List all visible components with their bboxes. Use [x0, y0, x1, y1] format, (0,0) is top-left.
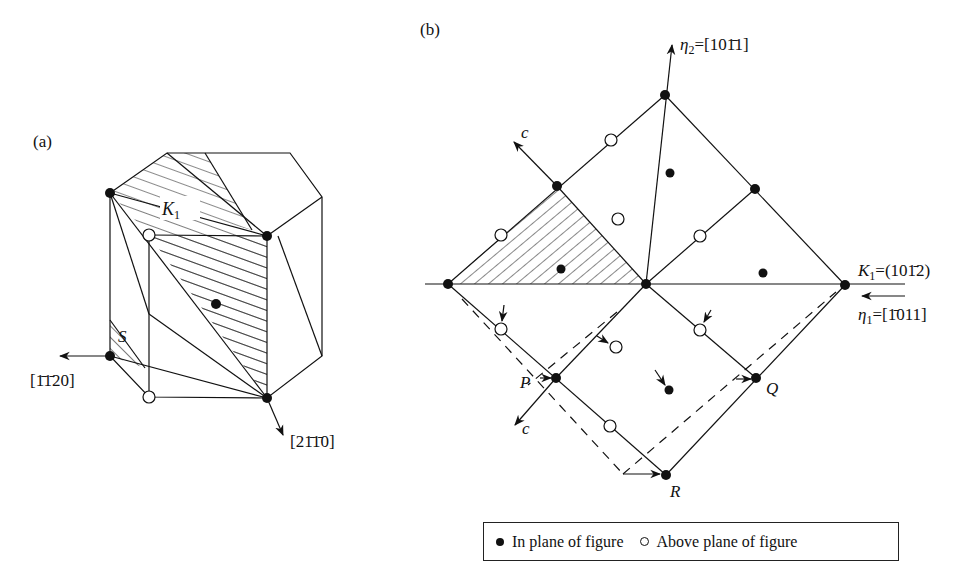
atom-open [694, 324, 706, 336]
atom-open [604, 420, 616, 432]
legend-filled-label: In plane of figure [512, 533, 624, 551]
atom-filled [665, 386, 674, 395]
atom-open [610, 341, 622, 353]
k1-plane-hatch-lower [149, 235, 267, 398]
open-circle-icon [640, 537, 649, 546]
c-axis-label-upper: c [521, 123, 529, 142]
atom-filled [551, 373, 561, 383]
s-label: S [118, 327, 127, 346]
atom-filled [840, 280, 850, 290]
atom-filled [211, 299, 221, 309]
atom-open [143, 229, 155, 241]
point-p-label: P [519, 373, 530, 392]
c-axis-label-lower: c [522, 419, 530, 438]
point-q-label: Q [766, 379, 778, 398]
atom-filled [750, 184, 760, 194]
atom-filled [751, 373, 761, 383]
twin-region-hatch [448, 186, 646, 284]
point-r-label: R [669, 482, 681, 501]
atom-filled [443, 279, 453, 289]
direction-arrow-down [267, 398, 283, 435]
legend-open-label: Above plane of figure [657, 533, 798, 551]
atom-filled [262, 393, 272, 403]
panel-b-label: (b) [420, 20, 440, 39]
atom-filled [660, 90, 670, 100]
atom-open [495, 229, 507, 241]
atom-filled [262, 231, 272, 241]
panel-b-points [443, 90, 850, 480]
atom-filled [105, 188, 115, 198]
filled-circle-icon [496, 538, 504, 546]
atom-open [605, 134, 617, 146]
atom-filled [759, 269, 768, 278]
k1-label-b: K1=(101̄2) [857, 261, 930, 283]
panel-b [425, 45, 905, 475]
direction-label-bottom: [21̄1̄0] [290, 432, 335, 451]
atom-filled [557, 265, 566, 274]
twinning-diagram: (a) K1 S [1̄1̄20] [21̄1̄0] [0, 0, 975, 582]
atom-filled [641, 279, 651, 289]
eta2-label: η2=[101̄1] [680, 35, 749, 57]
atom-filled [105, 351, 115, 361]
legend: In plane of figure Above plane of figure [483, 522, 899, 561]
atom-filled [666, 169, 675, 178]
panel-a-label: (a) [33, 132, 52, 151]
atom-open [612, 213, 624, 225]
atom-filled [552, 181, 562, 191]
direction-label-left: [1̄1̄20] [30, 371, 75, 390]
atom-open [694, 230, 706, 242]
atom-open [143, 391, 155, 403]
atom-open [495, 323, 507, 335]
eta2-axis [646, 45, 672, 284]
eta1-label: η1=[1̄011] [858, 305, 927, 327]
atom-filled [661, 470, 671, 480]
panel-a [60, 153, 322, 435]
